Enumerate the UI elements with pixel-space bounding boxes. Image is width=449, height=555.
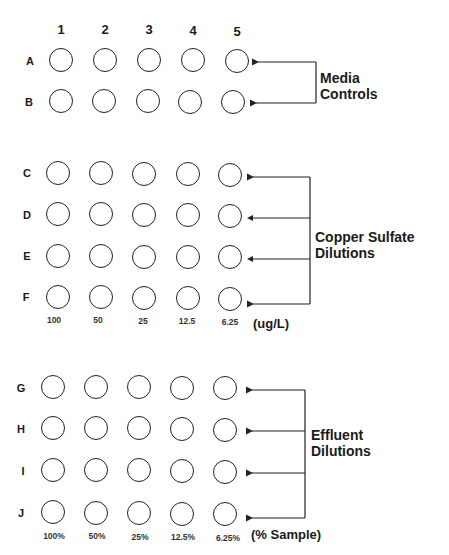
well-b4	[178, 90, 202, 114]
well-f1	[46, 285, 70, 309]
row-label-a: A	[26, 55, 34, 67]
well-e3	[132, 245, 156, 269]
well-a5	[225, 49, 249, 73]
well-d2	[89, 202, 113, 226]
well-f2	[89, 285, 113, 309]
well-d5	[218, 204, 242, 228]
well-a1	[49, 48, 73, 72]
column-header-1: 1	[57, 22, 64, 37]
concentration-unit: (ug/L)	[253, 316, 289, 331]
well-d1	[46, 202, 70, 226]
concentration-label-2: 50	[93, 315, 102, 325]
well-c2	[89, 161, 113, 185]
well-i4	[170, 459, 194, 483]
well-b5	[221, 90, 245, 114]
copper-sulfate-label: Copper Sulfate Dilutions	[315, 229, 415, 261]
well-i2	[84, 458, 108, 482]
well-d3	[132, 203, 156, 227]
well-e2	[89, 244, 113, 268]
well-a3	[137, 48, 161, 72]
well-j2	[84, 501, 108, 525]
effluent-concentration-label-5: 6.25%	[216, 533, 240, 543]
column-header-4: 4	[189, 23, 196, 38]
row-label-f: F	[23, 291, 30, 303]
media-controls-bracket	[256, 62, 316, 103]
well-g5	[213, 376, 237, 400]
concentration-label-5: 6.25	[222, 317, 239, 327]
media-controls-label: Media Controls	[320, 70, 378, 102]
well-f3	[132, 286, 156, 310]
effluent-bracket	[252, 390, 305, 518]
well-e5	[218, 245, 242, 269]
well-b3	[136, 89, 160, 113]
effluent-concentration-label-1: 100%	[43, 531, 65, 541]
well-g1	[41, 375, 65, 399]
well-g4	[170, 376, 194, 400]
well-j1	[41, 500, 65, 524]
well-i5	[213, 460, 237, 484]
column-header-3: 3	[145, 22, 152, 37]
well-f5	[218, 287, 242, 311]
well-a4	[181, 48, 205, 72]
row-label-c: C	[23, 167, 31, 179]
effluent-concentration-label-3: 25%	[131, 532, 148, 542]
well-i3	[127, 458, 151, 482]
concentration-label-4: 12.5	[179, 316, 196, 326]
row-label-g: G	[17, 382, 26, 394]
well-e4	[176, 245, 200, 269]
row-label-d: D	[23, 209, 31, 221]
effluent-unit: (% Sample)	[251, 527, 321, 542]
well-plate-diagram: 1 2 3 4 5 A B Media Controls C D E F	[0, 0, 449, 555]
well-h3	[127, 416, 151, 440]
well-h4	[170, 417, 194, 441]
row-label-b: B	[25, 96, 33, 108]
effluent-concentration-label-2: 50%	[88, 531, 105, 541]
well-c4	[176, 162, 200, 186]
well-j5	[213, 502, 237, 526]
well-h5	[213, 418, 237, 442]
row-label-i: I	[21, 465, 24, 477]
well-c5	[218, 163, 242, 187]
well-j4	[170, 502, 194, 526]
column-header-2: 2	[101, 22, 108, 37]
well-b1	[49, 89, 73, 113]
well-h1	[41, 416, 65, 440]
concentration-label-1: 100	[47, 315, 61, 325]
well-h2	[84, 416, 108, 440]
well-g3	[127, 375, 151, 399]
row-label-j: J	[18, 507, 24, 519]
copper-sulfate-bracket	[247, 177, 310, 304]
well-g2	[84, 375, 108, 399]
column-header-5: 5	[233, 24, 240, 39]
well-f4	[176, 286, 200, 310]
row-label-h: H	[17, 423, 25, 435]
effluent-label: Effluent Dilutions	[311, 427, 371, 459]
well-d4	[176, 203, 200, 227]
well-e1	[46, 244, 70, 268]
well-c3	[132, 162, 156, 186]
well-i1	[41, 458, 65, 482]
row-label-e: E	[23, 250, 30, 262]
well-j3	[127, 501, 151, 525]
well-a2	[93, 48, 117, 72]
well-c1	[46, 161, 70, 185]
well-b2	[92, 89, 116, 113]
effluent-concentration-label-4: 12.5%	[171, 532, 195, 542]
concentration-label-3: 25	[138, 316, 147, 326]
